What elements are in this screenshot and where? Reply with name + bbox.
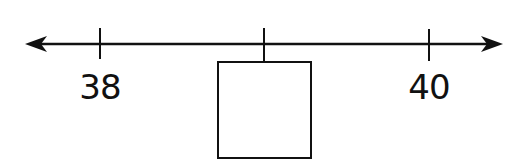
tick-label-38: 38 (79, 70, 120, 104)
number-line-diagram: 38 40 (0, 0, 526, 164)
tick-label-40: 40 (408, 70, 449, 104)
answer-box[interactable] (217, 61, 312, 159)
